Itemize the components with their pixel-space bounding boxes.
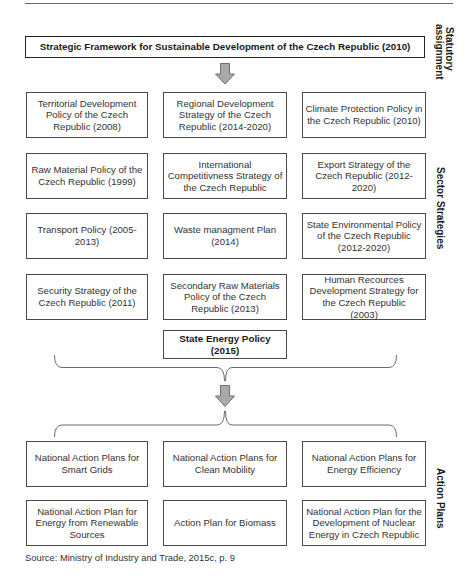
action-plan-box: National Action Plan for the Development…: [302, 500, 426, 546]
sector-strategies-label: Sector Strategies: [431, 162, 445, 254]
strategy-label: Regional Development Strategy of the Cze…: [166, 98, 284, 133]
down-arrow-icon-2: [216, 386, 235, 407]
action-plan-box: National Action Plan for Energy from Ren…: [26, 500, 148, 546]
strategy-box: Territorial Development Policy of the Cz…: [26, 92, 148, 138]
strategy-label: International Competitivness Strategy of…: [166, 159, 284, 194]
strategy-label: Transport Policy (2005-2013): [29, 224, 145, 247]
strategy-box: State Environmental Policy of the Czech …: [302, 213, 426, 259]
strategy-label: State Environmental Policy of the Czech …: [305, 219, 423, 254]
strategy-box: Security Strategy of the Czech Republic …: [26, 274, 148, 320]
strategy-label: Security Strategy of the Czech Republic …: [37, 285, 137, 308]
strategy-box: International Competitivness Strategy of…: [163, 153, 287, 199]
strategy-box: Human Recources Development Strategy for…: [302, 274, 426, 320]
down-arrow-icon: [216, 64, 235, 85]
action-plan-label: Action Plan for Biomass: [174, 517, 276, 529]
energy-policy-box: State Energy Policy (2015): [163, 330, 287, 359]
action-plan-label: National Action Plans for Smart Grids: [32, 452, 142, 475]
action-plan-label: National Action Plan for the Development…: [305, 506, 423, 541]
action-plans-label: Action Plans: [431, 463, 445, 533]
lower-brace: [55, 411, 397, 437]
strategy-box: Export Strategy of the Czech Republic (2…: [302, 153, 426, 199]
strategy-box: Transport Policy (2005-2013): [26, 213, 148, 259]
action-plan-box: Action Plan for Biomass: [163, 500, 287, 546]
strategy-label: Raw Material Policy of the Czech Republi…: [29, 164, 145, 187]
energy-policy-title: State Energy Policy (2015): [166, 333, 284, 356]
strategy-label: Climate Protection Policy in the Czech R…: [305, 103, 423, 126]
strategy-label: Territorial Development Policy of the Cz…: [29, 98, 145, 133]
action-plan-box: National Action Plans for Clean Mobility: [163, 441, 287, 487]
action-plan-label: National Action Plan for Energy from Ren…: [33, 506, 141, 541]
source-caption: Source: Ministry of Industry and Trade, …: [25, 552, 235, 563]
strategy-box: Climate Protection Policy in the Czech R…: [302, 92, 426, 138]
strategy-label: Secondary Raw Materials Policy of the Cz…: [166, 280, 284, 315]
strategy-label: Human Recources Development Strategy for…: [308, 274, 420, 320]
strategy-box: Waste managment Plan (2014): [163, 213, 287, 259]
strategy-box: Raw Material Policy of the Czech Republi…: [26, 153, 148, 199]
strategy-box: Regional Development Strategy of the Cze…: [163, 92, 287, 138]
strategy-label: Waste managment Plan (2014): [173, 224, 278, 247]
action-plan-box: National Action Plans for Energy Efficie…: [302, 441, 426, 487]
strategy-box: Secondary Raw Materials Policy of the Cz…: [163, 274, 287, 320]
strategy-label: Export Strategy of the Czech Republic (2…: [305, 159, 423, 194]
action-plan-label: National Action Plans for Clean Mobility: [170, 452, 280, 475]
action-plan-box: National Action Plans for Smart Grids: [26, 441, 148, 487]
action-plan-label: National Action Plans for Energy Efficie…: [309, 452, 419, 475]
